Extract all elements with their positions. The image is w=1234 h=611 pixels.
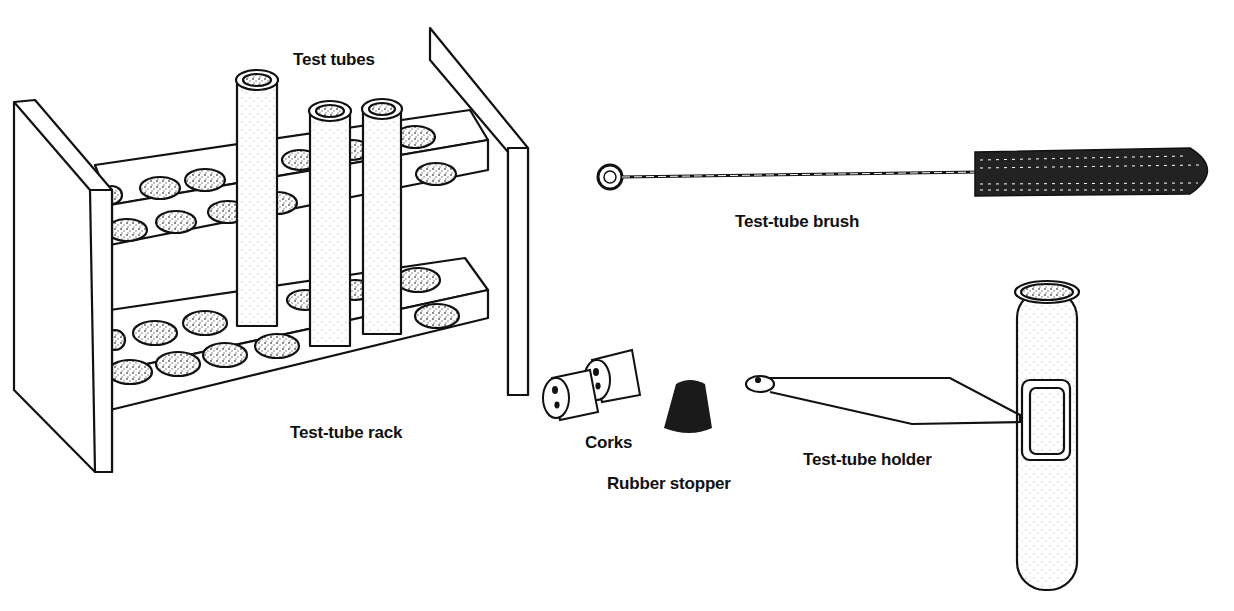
rubber-stopper (664, 380, 712, 433)
corks (543, 350, 640, 420)
label-corks: Corks (585, 433, 632, 453)
test-tube-rack (14, 28, 528, 472)
label-test-tube-rack: Test-tube rack (290, 423, 402, 443)
test-tubes (236, 70, 402, 346)
diagram-drawing (0, 0, 1234, 611)
label-rubber-stopper: Rubber stopper (607, 474, 731, 494)
label-test-tubes: Test tubes (293, 50, 375, 70)
test-tube-holder (746, 281, 1079, 590)
test-tube-brush (598, 148, 1208, 196)
lab-equipment-diagram: Test tubes Test-tube brush Test-tube rac… (0, 0, 1234, 611)
label-test-tube-holder: Test-tube holder (803, 450, 932, 470)
label-test-tube-brush: Test-tube brush (735, 212, 859, 232)
